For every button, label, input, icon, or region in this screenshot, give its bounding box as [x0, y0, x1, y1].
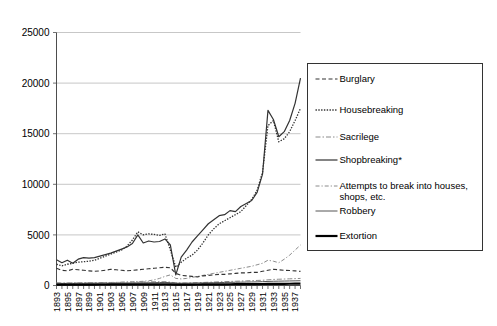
x-tick-label: 1893: [52, 292, 62, 312]
series-line-burglary: [57, 267, 301, 277]
x-axis: 1893189518971899190119031905190719091911…: [52, 286, 301, 313]
x-tick-label: 1933: [269, 292, 279, 312]
legend-label-line2: shops, etc.: [340, 191, 386, 202]
x-tick-label: 1915: [171, 292, 181, 312]
y-tick-label: 20000: [22, 78, 50, 89]
legend-label: Housebreaking: [340, 104, 404, 115]
y-tick-label: 15000: [22, 128, 50, 139]
y-axis: 0500010000150002000025000: [22, 27, 57, 291]
x-tick-label: 1927: [236, 292, 246, 312]
x-tick-label: 1895: [63, 292, 73, 312]
x-tick-label: 1899: [84, 292, 94, 312]
legend-label: Sacrilege: [340, 131, 380, 142]
x-tick-label: 1907: [128, 292, 138, 312]
series-lines: [57, 78, 301, 285]
x-tick-label: 1923: [215, 292, 225, 312]
y-tick-label: 5000: [27, 230, 50, 241]
x-tick-label: 1929: [247, 292, 257, 312]
x-tick-label: 1901: [95, 292, 105, 312]
x-tick-label: 1911: [150, 292, 160, 311]
line-chart: 0500010000150002000025000 18931895189718…: [0, 0, 497, 326]
chart-canvas: 0500010000150002000025000 18931895189718…: [0, 0, 497, 326]
x-tick-label: 1897: [74, 292, 84, 312]
y-tick-label: 25000: [22, 27, 50, 38]
x-tick-label: 1925: [225, 292, 235, 312]
series-line-sacrilege: [57, 278, 301, 283]
x-tick-label: 1921: [204, 292, 214, 312]
y-tick-label: 0: [44, 280, 50, 291]
chart-legend: BurglaryHousebreakingSacrilegeShopbreaki…: [308, 64, 483, 251]
legend-label: Robbery: [340, 205, 376, 216]
x-tick-label: 1905: [117, 292, 127, 312]
x-tick-label: 1937: [290, 292, 300, 312]
x-tick-label: 1931: [258, 292, 268, 312]
legend-label: Extortion: [340, 230, 378, 241]
x-tick-label: 1913: [160, 292, 170, 312]
legend-label: Attempts to break into houses,: [340, 180, 468, 191]
x-tick-label: 1919: [193, 292, 203, 312]
series-line-housebreaking: [57, 108, 301, 267]
x-tick-label: 1903: [106, 292, 116, 312]
x-tick-label: 1909: [139, 292, 149, 312]
series-line-shopbreaking: [57, 78, 301, 275]
y-tick-label: 10000: [22, 179, 50, 190]
legend-label: Burglary: [340, 73, 376, 84]
legend-label: Shopbreaking*: [340, 154, 403, 165]
series-line-extortion: [57, 284, 301, 285]
x-tick-label: 1917: [182, 292, 192, 312]
x-tick-label: 1935: [280, 292, 290, 312]
gridlines: [57, 33, 301, 235]
